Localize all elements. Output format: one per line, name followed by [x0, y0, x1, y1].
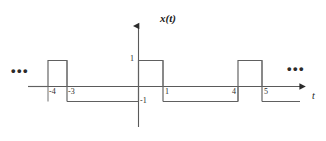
- tick-label-1: 1: [165, 88, 169, 96]
- tick-label-minus3: -3: [68, 88, 75, 96]
- tick-marks: [48, 61, 262, 102]
- signal-name-label: x(t): [160, 13, 176, 24]
- amplitude-high-label: 1: [130, 55, 134, 63]
- right-continuation-ellipsis: •••: [287, 62, 305, 75]
- tick-label-4: 4: [232, 88, 236, 96]
- signal-plot-figure: x(t) t 1 -1 -4 -3 1 4 5 ••• •••: [0, 0, 326, 141]
- amplitude-low-label: -1: [140, 97, 147, 105]
- tick-label-minus4: -4: [49, 88, 56, 96]
- time-axis-label: t: [312, 91, 315, 101]
- tick-label-5: 5: [264, 88, 268, 96]
- left-continuation-ellipsis: •••: [11, 64, 29, 77]
